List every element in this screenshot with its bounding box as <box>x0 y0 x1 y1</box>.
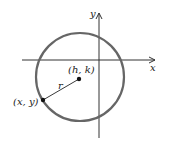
circle-point <box>41 98 45 102</box>
x-axis-label: x <box>150 63 156 73</box>
center-point <box>77 77 81 81</box>
y-axis-label: y <box>90 9 96 19</box>
center-label: (h, k) <box>68 65 95 75</box>
point-label: (x, y) <box>13 97 38 107</box>
radius-label: r <box>58 81 63 91</box>
circle <box>36 33 124 121</box>
